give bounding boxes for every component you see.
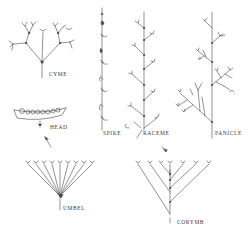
label-spike: SPIKE bbox=[103, 130, 121, 136]
label-cyme: CYME bbox=[49, 71, 67, 77]
label-umbel: UMBEL bbox=[63, 205, 85, 211]
cyme-drawing bbox=[9, 22, 74, 78]
label-head: HEAD bbox=[50, 124, 68, 130]
raceme-drawing bbox=[125, 12, 159, 138]
label-raceme: RACEME bbox=[143, 130, 170, 136]
umbel-drawing bbox=[26, 161, 94, 210]
corymb-drawing bbox=[136, 161, 211, 223]
spike-drawing bbox=[99, 8, 107, 130]
diagram-drawing bbox=[0, 0, 250, 232]
label-corymb: CORYMB bbox=[177, 219, 204, 225]
panicle-drawing bbox=[176, 12, 234, 138]
inflorescence-diagram: CYME SPIKE RACEME PANICLE HEAD UMBEL COR… bbox=[0, 0, 250, 232]
label-panicle: PANICLE bbox=[215, 130, 242, 136]
